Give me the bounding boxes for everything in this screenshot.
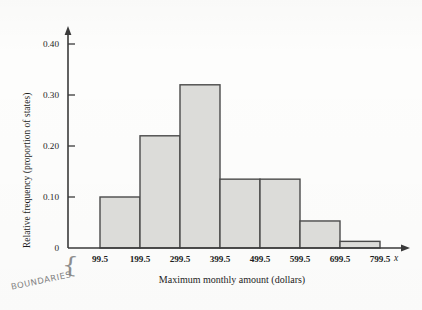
- histogram-bar: [140, 136, 180, 248]
- x-axis-tick-label: 99.5: [92, 254, 108, 264]
- y-axis-title: Relative frequency (proportion of states…: [22, 93, 32, 248]
- x-tick-group: 99.5199.5299.5399.5499.5599.5699.5799.5: [92, 254, 391, 264]
- bar-group: [100, 85, 380, 248]
- y-axis-tick-label: 0.20: [43, 141, 59, 151]
- y-axis-arrowhead: [65, 26, 72, 35]
- x-axis-tick-label: 599.5: [290, 254, 311, 264]
- x-axis-arrowhead: [401, 245, 410, 252]
- y-axis-tick-label: 0.40: [43, 39, 59, 49]
- histogram-bar: [260, 179, 300, 248]
- x-axis-tick-label: 199.5: [130, 254, 151, 264]
- x-axis-tick-label: 399.5: [210, 254, 231, 264]
- histogram-bar: [100, 197, 140, 248]
- y-axis-tick-label: 0: [54, 243, 59, 253]
- histogram-bar: [300, 221, 340, 248]
- histogram-bar: [180, 85, 220, 248]
- x-axis-tick-label: 299.5: [170, 254, 191, 264]
- x-axis-tick-label: 699.5: [330, 254, 351, 264]
- y-axis-tick-label: 0.10: [43, 192, 59, 202]
- x-axis-variable-label: x: [393, 253, 399, 263]
- y-axis-tick-label: 0.30: [43, 90, 59, 100]
- histogram-bar: [340, 241, 380, 248]
- histogram-figure: Relative frequency (proportion of states…: [0, 0, 422, 310]
- x-axis-tick-label: 799.5: [370, 254, 391, 264]
- histogram-bar: [220, 179, 260, 248]
- y-tick-group: 00.100.200.300.40: [43, 39, 75, 253]
- x-axis-tick-label: 499.5: [250, 254, 271, 264]
